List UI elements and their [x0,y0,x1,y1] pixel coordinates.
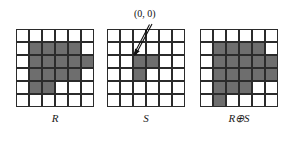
grid-cell [213,81,226,94]
grid-cell [265,55,278,68]
grid-cell [159,94,172,107]
grid-cell [29,55,42,68]
grid-cell [133,55,146,68]
grid-cell [133,42,146,55]
grid-cell [16,42,29,55]
grid-cell [16,68,29,81]
grid-cell [29,42,42,55]
grid-cell [146,94,159,107]
grid-cell [200,94,213,107]
grid-cell [213,68,226,81]
grid-cell [252,29,265,42]
grid-cell [81,81,94,94]
grid-cell [120,68,133,81]
grid-cell [159,81,172,94]
grid-cell [133,81,146,94]
grid-cell [146,42,159,55]
grid-cell [68,81,81,94]
grid-cell [200,55,213,68]
grid-cell [107,42,120,55]
grid-cell [107,55,120,68]
grid-cell [55,42,68,55]
grid-cell [146,68,159,81]
grid-cell [239,29,252,42]
grid-cell [42,68,55,81]
grid-cell [107,68,120,81]
grid-cell [68,94,81,107]
panel-S: S [107,29,185,129]
grid-cell [16,94,29,107]
grid-cell [239,42,252,55]
panel-R: R [16,29,94,129]
grid-cell [200,68,213,81]
grid-cell [200,81,213,94]
grid-cell [16,81,29,94]
grid-cell [172,68,185,81]
grid-cell [120,94,133,107]
grid-cell [172,42,185,55]
grid-cell [226,29,239,42]
panel-label-S: S [107,112,185,124]
grid-cell [226,68,239,81]
grid-cell [68,55,81,68]
grid-cell [159,55,172,68]
grid-cell [172,29,185,42]
grid-cell [265,68,278,81]
grid-cell [120,81,133,94]
grid-cell [120,42,133,55]
grid-cell [68,29,81,42]
grid-cell [16,29,29,42]
panel-r-dilate-s: R⊕S [200,29,278,129]
grid-cell [42,94,55,107]
grid-cell [213,29,226,42]
grid-cell [81,55,94,68]
panel-label-R: R [16,112,94,124]
grid-cell [200,29,213,42]
grid-cell [172,55,185,68]
grid-cell [265,81,278,94]
grid-cell [16,55,29,68]
grid-r-dilate-s [200,29,278,107]
grid-S [107,29,185,107]
grid-cell [172,94,185,107]
grid-cell [239,94,252,107]
grid-cell [120,55,133,68]
grid-cell [68,42,81,55]
grid-cell [55,29,68,42]
grid-cell [200,42,213,55]
grid-cell [265,29,278,42]
grid-cell [239,55,252,68]
grid-cell [252,55,265,68]
grid-cell [146,81,159,94]
grid-cell [159,42,172,55]
grid-cell [29,94,42,107]
grid-cell [265,42,278,55]
grid-cell [133,68,146,81]
grid-cell [29,81,42,94]
grid-cell [42,55,55,68]
grid-cell [107,81,120,94]
grid-cell [42,42,55,55]
grid-cell [226,55,239,68]
grid-cell [55,68,68,81]
grid-cell [55,81,68,94]
grid-cell [81,94,94,107]
panel-label-r-dilate-s: R⊕S [200,112,278,125]
grid-cell [55,55,68,68]
grid-cell [146,29,159,42]
grid-cell [81,42,94,55]
grid-cell [172,81,185,94]
grid-cell [29,68,42,81]
grid-cell [68,68,81,81]
grid-cell [29,29,42,42]
grid-cell [146,55,159,68]
grid-cell [226,42,239,55]
grid-cell [133,94,146,107]
grid-cell [252,42,265,55]
grid-cell [252,81,265,94]
grid-cell [252,68,265,81]
grid-cell [120,29,133,42]
grid-cell [159,68,172,81]
grid-cell [213,42,226,55]
grid-cell [107,29,120,42]
